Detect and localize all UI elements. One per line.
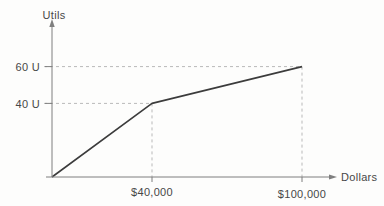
x-axis-title: Dollars bbox=[341, 171, 378, 183]
y-tick-label-40u: 40 U bbox=[16, 98, 40, 110]
utility-of-income-figure: Utils Dollars 60 U 40 U $40,000 $100,000 bbox=[0, 0, 384, 206]
curve-group bbox=[52, 67, 302, 177]
utility-curve-chart: Utils Dollars 60 U 40 U $40,000 $100,000 bbox=[0, 0, 384, 206]
x-tick-label-100000: $100,000 bbox=[278, 188, 326, 200]
utility-curve bbox=[52, 67, 302, 177]
y-axis-title: Utils bbox=[43, 9, 66, 21]
x-axis-arrow-icon bbox=[329, 174, 337, 179]
ticks-group bbox=[45, 67, 302, 182]
y-tick-label-60u: 60 U bbox=[16, 61, 40, 73]
x-tick-label-40000: $40,000 bbox=[131, 186, 173, 198]
gridlines-group bbox=[44, 67, 302, 177]
